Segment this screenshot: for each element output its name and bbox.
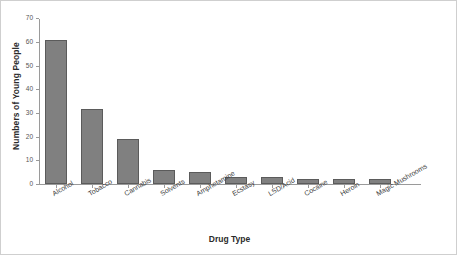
y-tick-mark-0 — [36, 184, 39, 185]
y-tick-mark-4 — [36, 89, 39, 90]
y-tick-label-2: 20 — [26, 132, 33, 141]
plot-area: 0 10 20 30 40 50 60 70 — [39, 19, 421, 185]
y-tick-3: 30 — [13, 113, 39, 114]
y-tick-label-7: 70 — [26, 13, 33, 22]
bar-tobacco — [81, 109, 103, 184]
y-tick-5: 50 — [13, 66, 39, 67]
y-tick-label-4: 40 — [26, 84, 33, 93]
y-tick-label-5: 50 — [26, 61, 33, 70]
y-axis-line — [39, 19, 40, 185]
bar-solvents — [153, 170, 175, 184]
y-tick-label-6: 60 — [26, 37, 33, 46]
y-tick-mark-7 — [36, 18, 39, 19]
bar-chart-figure: Numbers of Young People 0 10 20 30 40 50 — [0, 0, 457, 255]
bar-cannabis — [117, 139, 139, 184]
y-tick-mark-3 — [36, 113, 39, 114]
y-tick-label-3: 30 — [26, 108, 33, 117]
y-tick-4: 40 — [13, 89, 39, 90]
y-tick-1: 10 — [13, 160, 39, 161]
y-tick-2: 20 — [13, 137, 39, 138]
x-axis-title: Drug Type — [1, 234, 457, 244]
y-tick-7: 70 — [13, 18, 39, 19]
y-tick-mark-5 — [36, 66, 39, 67]
y-tick-label-0: 0 — [29, 179, 33, 188]
y-tick-mark-2 — [36, 137, 39, 138]
y-tick-mark-1 — [36, 160, 39, 161]
y-tick-label-1: 10 — [26, 155, 33, 164]
y-axis-title-text: Numbers of Young People — [11, 42, 21, 150]
y-tick-6: 60 — [13, 42, 39, 43]
y-axis-title: Numbers of Young People — [9, 1, 23, 191]
bar-alcohol — [45, 40, 67, 184]
y-tick-0: 0 — [13, 184, 39, 185]
y-tick-mark-6 — [36, 42, 39, 43]
